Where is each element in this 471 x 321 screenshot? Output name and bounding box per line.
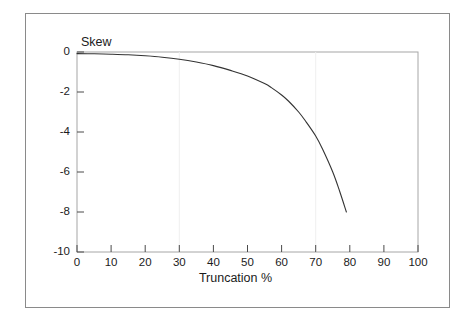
- y-tick-label--4: -4: [44, 126, 70, 138]
- y-tick-label-0: 0: [44, 46, 70, 58]
- x-tick-label-100: 100: [403, 257, 433, 269]
- y-tick-label--6: -6: [44, 166, 70, 178]
- y-tick-label--2: -2: [44, 86, 70, 98]
- x-tick-label-20: 20: [130, 257, 160, 269]
- x-tick-label-60: 60: [267, 257, 297, 269]
- x-tick-label-40: 40: [198, 257, 228, 269]
- x-tick-label-50: 50: [233, 257, 263, 269]
- x-tick-label-90: 90: [369, 257, 399, 269]
- plot-frame: [77, 52, 418, 252]
- y-tick-label--8: -8: [44, 206, 70, 218]
- x-tick-label-80: 80: [335, 257, 365, 269]
- x-tick-label-30: 30: [164, 257, 194, 269]
- x-tick-label-0: 0: [62, 257, 92, 269]
- y-tick-label--10: -10: [38, 246, 70, 258]
- y-axis-label: Skew: [81, 36, 112, 49]
- x-tick-label-10: 10: [96, 257, 126, 269]
- x-axis-label: Truncation %: [0, 272, 471, 285]
- x-tick-label-70: 70: [301, 257, 331, 269]
- figure-container: Skew 0 -2 -4 -6 -8 -10 0 10 20 30 40 50 …: [0, 0, 471, 321]
